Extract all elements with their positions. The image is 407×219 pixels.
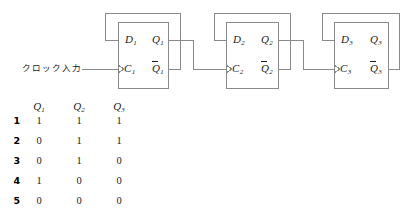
flipflop-2-c-label: C2: [232, 62, 243, 74]
table-header-q1: Q1: [28, 100, 50, 112]
q1-to-c2-wire: [168, 40, 226, 69]
flipflop-3-q-label: Q3: [370, 33, 381, 45]
flipflop-2-qbar-label: Q2: [261, 62, 272, 74]
table-header-q2: Q2: [68, 100, 90, 112]
flipflop-3-qbar-label: Q3: [370, 62, 381, 74]
table-cell: 0: [68, 195, 90, 206]
table-cell: 0: [28, 195, 50, 206]
table-cell: 1: [28, 115, 50, 126]
table-row-number: 3: [4, 155, 20, 166]
table-row-number: 5: [4, 195, 20, 206]
table-cell: 0: [108, 175, 130, 186]
table-cell: 1: [108, 135, 130, 146]
table-cell: 0: [68, 175, 90, 186]
flipflop-1-qbar-label: Q1: [152, 62, 163, 74]
table-cell: 0: [28, 155, 50, 166]
flipflop-1-c-label: C1: [124, 62, 135, 74]
q2-to-c3-wire: [278, 40, 334, 69]
flipflop-1-box: [118, 22, 168, 88]
flipflop-1-d-label: D1: [125, 33, 136, 45]
table-header-q3: Q3: [108, 100, 130, 112]
flipflop-3-c-label: C3: [340, 62, 351, 74]
flipflop-1-q-label: Q1: [152, 33, 163, 45]
flipflop-2-feedback-wire: [214, 13, 290, 69]
table-cell: 1: [68, 135, 90, 146]
table-cell: 0: [108, 155, 130, 166]
flipflop-2-q-label: Q2: [261, 33, 272, 45]
table-cell: 1: [108, 115, 130, 126]
circuit-svg: [0, 0, 407, 100]
table-cell: 1: [68, 115, 90, 126]
table-cell: 0: [28, 135, 50, 146]
table-row-number: 1: [4, 115, 20, 126]
flipflop-3-box: [334, 22, 388, 88]
flipflop-2-d-label: D2: [233, 33, 244, 45]
counter-diagram-page: クロック入力 D1 Q1 C1 Q1 D2 Q2 C2 Q2 D3 Q3 C3 …: [0, 0, 407, 219]
table-cell: 1: [28, 175, 50, 186]
table-cell: 1: [68, 155, 90, 166]
flipflop-3-d-label: D3: [341, 33, 352, 45]
clock-input-label: クロック入力: [22, 61, 83, 73]
circuit-diagram: クロック入力 D1 Q1 C1 Q1 D2 Q2 C2 Q2 D3 Q3 C3 …: [0, 0, 407, 100]
flipflop-1-feedback-wire: [105, 13, 180, 69]
flipflop-2-box: [226, 22, 278, 88]
table-row-number: 2: [4, 135, 20, 146]
table-cell: 0: [108, 195, 130, 206]
table-row-number: 4: [4, 175, 20, 186]
